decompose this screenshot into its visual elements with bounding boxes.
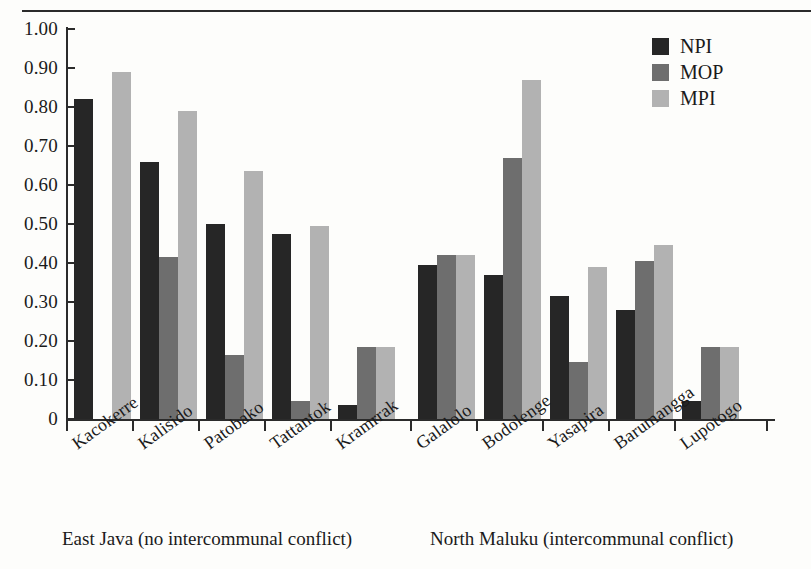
y-label-1.00: 1.00 [0, 19, 58, 38]
bar-group-patobako [206, 29, 263, 419]
legend-item-npi: NPI [652, 33, 723, 59]
bar-chart-figure: 00.100.200.300.400.500.600.700.800.901.0… [0, 0, 811, 569]
bar-group-tattantok [272, 29, 329, 419]
legend-swatch-mop [652, 64, 669, 81]
bar-group-galalolo [418, 29, 475, 419]
bar-kacokerre-mpi [112, 72, 131, 419]
bar-bodolenge-mop [503, 158, 522, 419]
bar-group-kalisido [140, 29, 197, 419]
x-tick-yasapira [542, 421, 544, 431]
bar-kalisido-npi [140, 162, 159, 419]
bar-galalolo-mop [437, 255, 456, 419]
y-label-0.70: 0.70 [0, 136, 58, 155]
x-tick-patobako [198, 421, 200, 431]
bar-group-bodolenge [484, 29, 541, 419]
bar-galalolo-npi [418, 265, 437, 419]
bar-patobako-mpi [244, 171, 263, 419]
x-tick-tattantok [264, 421, 266, 431]
y-label-0.50: 0.50 [0, 214, 58, 233]
bar-galalolo-mpi [456, 255, 475, 419]
legend-label-mop: MOP [680, 62, 723, 82]
x-tick-kalisido [132, 421, 134, 431]
y-label-0.90: 0.90 [0, 58, 58, 77]
x-tick-bodolenge [476, 421, 478, 431]
x-tick-kacokerre [66, 421, 68, 431]
y-label-0.60: 0.60 [0, 175, 58, 194]
x-tick-end [766, 421, 768, 431]
x-tick-kramrrak [330, 421, 332, 431]
bar-group-kramrrak [338, 29, 395, 419]
legend-swatch-npi [652, 38, 669, 55]
legend-label-mpi: MPI [680, 88, 716, 108]
y-label-0: 0 [0, 409, 58, 428]
x-tick-barumangga [608, 421, 610, 431]
bar-bodolenge-mpi [522, 80, 541, 419]
bar-barumangga-npi [616, 310, 635, 419]
bar-kacokerre-npi [74, 99, 93, 419]
x-tick-galalolo [410, 421, 412, 431]
y-label-0.40: 0.40 [0, 253, 58, 272]
legend-label-npi: NPI [680, 36, 712, 56]
bar-tattantok-mpi [310, 226, 329, 419]
x-tick-lupotogo [674, 421, 676, 431]
legend-item-mpi: MPI [652, 85, 723, 111]
bar-yasapira-npi [550, 296, 569, 419]
y-label-0.20: 0.20 [0, 331, 58, 350]
legend-swatch-mpi [652, 90, 669, 107]
top-divider-rule [22, 10, 811, 12]
caption-east-java: East Java (no intercommunal conflict) [62, 528, 352, 550]
bar-bodolenge-npi [484, 275, 503, 419]
bar-kalisido-mop [159, 257, 178, 419]
bar-yasapira-mpi [588, 267, 607, 419]
bar-kramrrak-npi [338, 405, 357, 419]
bar-patobako-npi [206, 224, 225, 419]
bar-kalisido-mpi [178, 111, 197, 419]
bar-barumangga-mop [635, 261, 654, 419]
y-label-0.80: 0.80 [0, 97, 58, 116]
y-label-0.10: 0.10 [0, 370, 58, 389]
caption-north-maluku: North Maluku (intercommunal conflict) [430, 528, 733, 550]
chart-legend: NPIMOPMPI [652, 33, 723, 111]
bar-group-kacokerre [74, 29, 131, 419]
bar-group-yasapira [550, 29, 607, 419]
legend-item-mop: MOP [652, 59, 723, 85]
bar-tattantok-npi [272, 234, 291, 419]
y-label-0.30: 0.30 [0, 292, 58, 311]
